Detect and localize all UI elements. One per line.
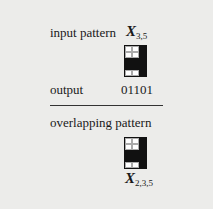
grid-cell bbox=[132, 162, 139, 168]
grid-cell bbox=[132, 70, 139, 76]
overlapping-pattern-variable: X2,3,5 bbox=[125, 170, 153, 188]
overlapping-pattern-label: overlapping pattern bbox=[50, 115, 151, 131]
input-pattern-variable: X3,5 bbox=[126, 23, 147, 41]
grid-cell bbox=[125, 70, 132, 76]
grid-cell bbox=[125, 162, 132, 168]
divider bbox=[50, 105, 163, 106]
overlapping-pattern-grid bbox=[124, 137, 147, 169]
output-value: 01101 bbox=[121, 82, 153, 98]
grid-cell bbox=[139, 70, 146, 76]
grid-cell bbox=[139, 162, 146, 168]
input-pattern-label: input pattern bbox=[50, 25, 116, 41]
input-pattern-grid bbox=[124, 45, 147, 77]
output-label: output bbox=[50, 82, 83, 98]
